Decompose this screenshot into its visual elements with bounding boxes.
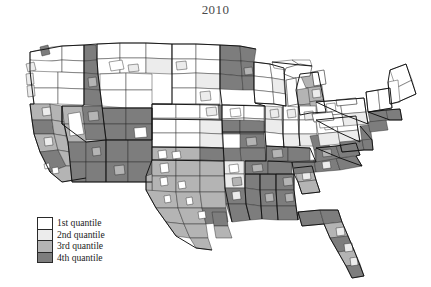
county-area [232, 177, 242, 186]
county-area [368, 120, 388, 132]
county-area [220, 60, 242, 76]
county-area [230, 108, 241, 117]
county-area [214, 226, 232, 238]
choropleth-map-figure: 2010 [0, 0, 431, 287]
legend-label-1st-quantile: 1st quantile [57, 217, 102, 229]
county-area [146, 58, 172, 74]
county-area [146, 43, 172, 59]
county-area [270, 109, 279, 118]
county-area [128, 140, 152, 162]
county-area [42, 107, 51, 116]
county-area [68, 142, 86, 162]
county-area [198, 211, 206, 219]
legend-item-3rd-quantile: 3rd quantile [37, 240, 129, 252]
county-area [27, 85, 35, 97]
county-area [134, 127, 147, 138]
county-area [336, 227, 345, 236]
county-area [287, 109, 296, 118]
county-area [200, 147, 224, 161]
county-area [126, 73, 152, 90]
county-area [261, 206, 278, 220]
county-area [362, 139, 373, 150]
county-area [92, 147, 101, 156]
county-area [272, 78, 285, 94]
county-area [109, 60, 124, 71]
county-area [265, 132, 284, 148]
county-area [176, 133, 200, 147]
county-area [160, 177, 168, 186]
county-area [84, 89, 102, 106]
county-area [220, 45, 241, 61]
county-area [285, 193, 294, 202]
county-area [200, 160, 224, 176]
county-area [246, 137, 257, 146]
county-area [244, 105, 264, 119]
county-area [102, 108, 126, 124]
county-area [172, 88, 196, 104]
county-area [268, 161, 292, 175]
legend-label-2nd-quantile: 2nd quantile [57, 229, 105, 241]
county-area [40, 45, 50, 56]
county-area [277, 206, 298, 220]
county-area [126, 90, 152, 108]
county-area [283, 177, 293, 186]
county-area [172, 44, 196, 59]
county-area [283, 120, 299, 134]
county-area [104, 124, 126, 140]
county-area [86, 162, 106, 182]
county-area [84, 45, 97, 61]
county-area [232, 191, 241, 200]
county-area [200, 176, 225, 192]
county-area [322, 161, 331, 169]
county-area [242, 76, 254, 90]
county-area [52, 120, 66, 136]
county-area [26, 62, 36, 72]
county-area [88, 111, 99, 121]
legend-item-1st-quantile: 1st quantile [37, 217, 129, 229]
county-area [254, 76, 273, 92]
county-area [206, 107, 217, 116]
legend-swatch-2nd-quantile [37, 229, 53, 241]
county-area [146, 174, 152, 192]
county-area [200, 91, 211, 101]
county-area [220, 74, 243, 90]
county-area [88, 77, 97, 87]
county-area [283, 134, 300, 148]
county-area [152, 133, 176, 147]
county-area [84, 60, 98, 74]
county-area [245, 174, 260, 190]
county-area [178, 181, 186, 189]
county-area [176, 104, 200, 118]
county-area [44, 137, 53, 146]
county-area [32, 88, 58, 104]
county-area [186, 197, 193, 205]
county-area [245, 188, 261, 206]
county-area [62, 45, 84, 61]
county-area [200, 192, 226, 208]
county-area [97, 43, 120, 59]
county-area [126, 108, 152, 124]
county-area [240, 148, 266, 161]
county-area [223, 148, 241, 161]
legend-swatch-4th-quantile [37, 252, 53, 264]
county-area [212, 212, 228, 226]
county-area [254, 90, 274, 104]
legend-swatch-1st-quantile [37, 217, 53, 229]
county-area [272, 149, 283, 158]
legend-item-4th-quantile: 4th quantile [37, 252, 129, 264]
lake-erie [312, 112, 334, 122]
county-area [298, 210, 324, 226]
county-area [176, 160, 200, 176]
county-area [200, 119, 222, 134]
county-area [58, 72, 84, 89]
county-area [265, 119, 283, 134]
county-area [158, 150, 167, 159]
county-area [152, 119, 176, 133]
legend-label-3rd-quantile: 3rd quantile [57, 240, 103, 252]
county-area [254, 62, 272, 78]
county-area [164, 195, 171, 203]
legend-swatch-3rd-quantile [37, 240, 53, 252]
legend: 1st quantile 2nd quantile 3rd quantile 4… [37, 217, 129, 263]
county-area [200, 133, 223, 148]
county-area [176, 119, 200, 133]
